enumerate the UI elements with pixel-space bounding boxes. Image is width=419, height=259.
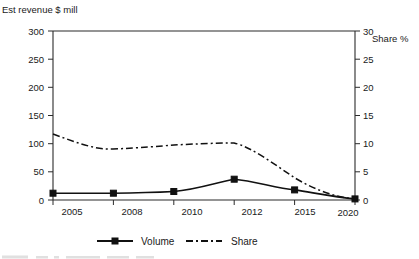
series-line-volume [53, 179, 355, 199]
data-point-volume-2008 [110, 190, 116, 196]
right-tick-label-5: 5 [363, 166, 368, 177]
clipped-caption-strip [2, 256, 154, 259]
x-tick-label-2010: 2010 [181, 206, 202, 217]
left-tick-label-100: 100 [28, 138, 44, 149]
x-tick-label-2020: 2020 [337, 207, 358, 218]
right-tick-label-20: 20 [363, 82, 374, 93]
chart-figure: Est revenue $ mill Share % 0 50 100 150 … [0, 0, 419, 259]
right-tick-label-0: 0 [363, 195, 368, 206]
x-tick-label-2012: 2012 [241, 206, 262, 217]
x-tick-label-2005: 2005 [61, 206, 82, 217]
right-tick-label-10: 10 [363, 138, 374, 149]
right-tick-label-15: 15 [363, 110, 374, 121]
chart-legend: Volume Share [97, 236, 258, 247]
right-tick-label-25: 25 [363, 54, 374, 65]
axis-frame [53, 31, 355, 200]
data-point-volume-2010 [171, 189, 177, 195]
data-point-volume-2020 [352, 196, 358, 202]
data-point-volume-2005 [50, 190, 56, 196]
series-line-share [53, 134, 355, 199]
right-tick-label-30: 30 [363, 26, 374, 37]
left-tick-label-50: 50 [33, 166, 44, 177]
x-tick-label-2015: 2015 [294, 206, 315, 217]
left-tick-label-300: 300 [28, 26, 44, 37]
legend-label-share: Share [231, 236, 258, 247]
legend-marker-volume [112, 238, 118, 244]
left-tick-label-150: 150 [28, 110, 44, 121]
data-point-volume-2012 [231, 176, 237, 182]
legend-label-volume: Volume [141, 236, 175, 247]
data-point-volume-2015 [292, 187, 298, 193]
right-axis-title: Share % [372, 33, 409, 44]
left-tick-label-0: 0 [39, 195, 44, 206]
right-axis-ticks: 0 5 10 15 20 25 30 [355, 26, 374, 206]
left-axis-title: Est revenue $ mill [2, 4, 78, 15]
series-markers-volume [50, 176, 358, 202]
left-tick-label-250: 250 [28, 54, 44, 65]
left-axis-ticks: 0 50 100 150 200 250 300 [28, 26, 53, 206]
x-axis-ticks: 2005 2008 2010 2012 2015 2020 [53, 200, 359, 218]
x-tick-label-2008: 2008 [121, 206, 142, 217]
left-tick-label-200: 200 [28, 82, 44, 93]
